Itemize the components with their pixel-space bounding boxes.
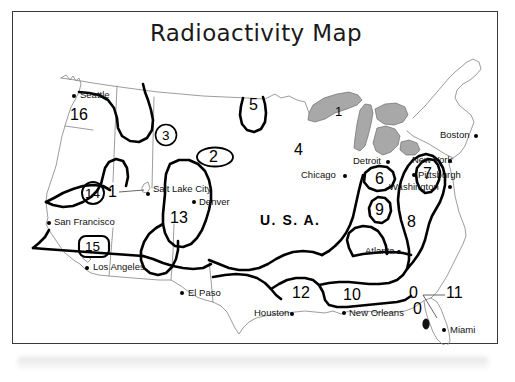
city-dot-washington xyxy=(448,185,452,189)
city-label-washington: Washington xyxy=(389,182,439,192)
city-label-boston: Boston xyxy=(440,130,470,140)
zone-label-15: 15 xyxy=(85,239,100,255)
city-label-new-york: New York xyxy=(412,155,452,165)
zone-label-3: 3 xyxy=(162,128,170,144)
country-label: U. S. A. xyxy=(260,212,321,228)
city-label-miami: Miami xyxy=(450,325,475,335)
city-label-houston: Houston xyxy=(254,308,289,318)
city-label-seattle: Seattle xyxy=(80,90,110,100)
zone-label-8: 8 xyxy=(407,214,416,230)
city-dot-el-paso xyxy=(180,291,184,295)
city-label-salt-lake-city: Salt Lake City xyxy=(153,184,212,194)
zone-label-0-north: 0 xyxy=(409,285,418,301)
zone-label-13: 13 xyxy=(170,210,188,226)
zone-label-2: 2 xyxy=(209,149,218,165)
zone-label-16: 16 xyxy=(70,107,88,123)
city-dot-miami xyxy=(442,328,446,332)
zone-label-1-lake: 1 xyxy=(335,104,342,120)
city-dot-boston xyxy=(474,134,478,138)
zone-label-1: 1 xyxy=(108,184,117,200)
city-dot-denver xyxy=(192,200,196,204)
great-lakes-shapes xyxy=(308,92,420,155)
city-dot-chicago xyxy=(343,174,347,178)
city-dot-san-francisco xyxy=(47,221,51,225)
zone-label-12: 12 xyxy=(292,285,310,301)
florida-hotspot-marker xyxy=(422,319,429,330)
city-dot-atlanta xyxy=(397,250,401,254)
city-label-denver: Denver xyxy=(199,197,230,207)
zone-label-6: 6 xyxy=(375,171,384,187)
city-label-detroit: Detroit xyxy=(353,156,381,166)
zone-label-4: 4 xyxy=(294,142,303,158)
city-dot-detroit xyxy=(386,160,390,164)
city-dot-pittsburgh xyxy=(412,173,416,177)
zone-label-9: 9 xyxy=(375,202,384,218)
city-label-new-orleans: New Orleans xyxy=(349,308,404,318)
city-dot-seattle xyxy=(72,94,76,98)
leader-zone-1 xyxy=(119,190,144,192)
zone-label-14: 14 xyxy=(85,186,100,202)
city-label-los-angeles: Los Angeles xyxy=(93,262,145,272)
screenshot-root: Radioactivity Map xyxy=(0,0,515,382)
scan-artifact xyxy=(18,357,488,370)
city-label-san-francisco: San Francisco xyxy=(54,217,115,227)
map-frame: Radioactivity Map xyxy=(12,11,498,344)
zone-label-5: 5 xyxy=(249,97,258,113)
city-label-pittsburgh: Pittsburgh xyxy=(418,170,461,180)
city-dot-houston xyxy=(290,312,294,316)
city-dot-salt-lake-city xyxy=(146,192,150,196)
city-label-chicago: Chicago xyxy=(301,170,336,180)
city-dot-new-orleans xyxy=(342,311,346,315)
zone-label-11: 11 xyxy=(446,285,463,301)
city-label-atlanta: Atlanta xyxy=(365,246,395,256)
city-dot-los-angeles xyxy=(85,266,89,270)
zone-label-10: 10 xyxy=(343,287,361,303)
city-label-el-paso: El Paso xyxy=(188,288,221,298)
zone-label-0-south: 0 xyxy=(413,301,422,317)
